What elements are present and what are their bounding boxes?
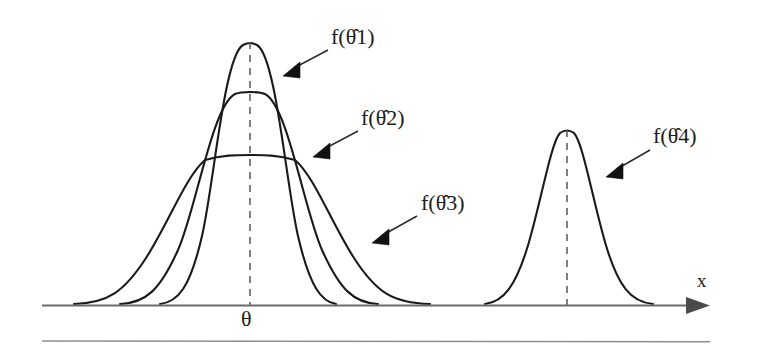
leader-arrowhead-2 (313, 143, 330, 159)
annotation-leaders-group (283, 50, 650, 245)
density-curve-4 (485, 131, 653, 305)
distribution-plot (0, 0, 761, 357)
figure-container: f(θ̂1) f(θ̂2) f(θ̂3) f(θ̂4) x θ (0, 0, 761, 357)
curve-label-2-text: f(θ̂2) (361, 105, 405, 130)
bottom-rule-line (42, 341, 710, 342)
curve-label-2: f(θ̂2) (361, 107, 405, 129)
curve-label-1-text: f(θ̂1) (331, 24, 375, 49)
density-curve-1 (160, 43, 336, 304)
leader-arrowhead-3 (372, 229, 389, 245)
curve-label-4: f(θ̂4) (653, 125, 697, 147)
x-axis-arrow-icon (686, 297, 710, 314)
curve-label-1: f(θ̂1) (331, 26, 375, 48)
curve-label-3: f(θ̂3) (421, 192, 465, 214)
x-axis-label: x (697, 271, 707, 290)
leader-arrowhead-4 (606, 163, 623, 179)
density-curve-3 (74, 155, 430, 304)
theta-tick-label: θ (241, 308, 252, 330)
curve-label-4-text: f(θ̂4) (653, 123, 697, 148)
density-curve-2 (120, 92, 378, 304)
curves-group (74, 43, 653, 304)
leader-arrowhead-1 (283, 62, 300, 78)
curve-label-3-text: f(θ̂3) (421, 190, 465, 215)
reference-lines-group (250, 42, 567, 306)
